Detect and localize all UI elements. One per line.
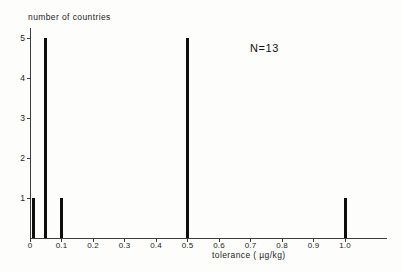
x-tick-label: 0.7	[240, 241, 262, 250]
x-tick-label: 1.0	[334, 241, 356, 250]
y-tick-label: 5	[13, 33, 25, 43]
x-tick-label: 0	[19, 241, 41, 250]
y-tick-label: 2	[13, 153, 25, 163]
histogram-bar	[344, 198, 347, 238]
x-tick-label: 0.2	[82, 241, 104, 250]
histogram-bar	[44, 38, 47, 238]
x-tick-label: 0.6	[208, 241, 230, 250]
histogram-bar	[186, 38, 189, 238]
histogram-bar	[32, 198, 35, 238]
y-axis-title: number of countries	[28, 12, 111, 22]
x-tick-label: 0.3	[114, 241, 136, 250]
x-tick-label: 0.1	[51, 241, 73, 250]
x-tick-label: 0.5	[177, 241, 199, 250]
y-tick	[27, 198, 30, 199]
y-tick-label: 4	[13, 73, 25, 83]
y-tick-label: 3	[13, 113, 25, 123]
y-tick	[27, 158, 30, 159]
x-axis-line	[30, 238, 387, 239]
sample-size-annotation: N=13	[250, 42, 279, 54]
tolerance-histogram-figure: number of countries N=13 00.10.20.30.40.…	[0, 0, 402, 272]
x-tick-label: 0.4	[145, 241, 167, 250]
histogram-bar	[60, 198, 63, 238]
y-tick-label: 1	[13, 193, 25, 203]
x-tick-label: 0.9	[303, 241, 325, 250]
y-tick	[27, 118, 30, 119]
x-tick-label: 0.8	[271, 241, 293, 250]
x-axis-title: tolerance ( µg/kg)	[212, 250, 286, 260]
y-tick	[27, 38, 30, 39]
y-tick	[27, 78, 30, 79]
